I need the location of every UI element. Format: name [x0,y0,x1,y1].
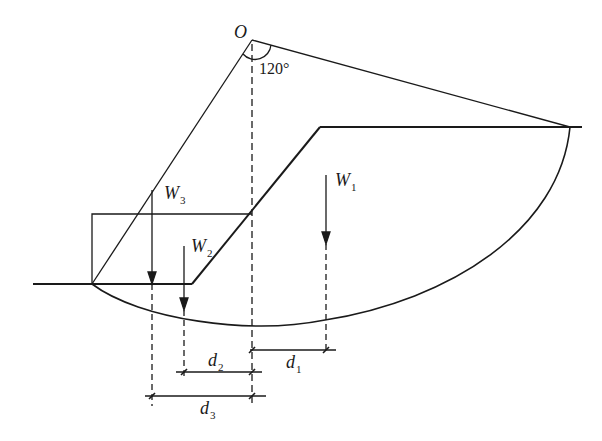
slope-face-line [192,127,320,284]
w2-label: W2 [191,236,213,257]
radius-line-right [252,40,570,127]
slip-surface-arc [92,127,570,326]
angle-label: 120° [259,60,289,78]
d2-label: d2 [208,350,224,371]
w3-arrow-head [148,272,156,284]
w3-label: W3 [164,183,186,204]
center-label: O [234,22,247,43]
radius-line-left [92,40,252,284]
d3-label: d3 [200,398,216,419]
d1-label: d1 [286,352,302,373]
w2-arrow-head [180,298,188,310]
w3-rectangle [92,214,252,284]
w1-label: W1 [335,170,357,191]
w1-arrow-head [322,232,330,244]
slope-stability-diagram: O 120° W1 W2 W3 d1 d2 d3 [0,0,602,441]
